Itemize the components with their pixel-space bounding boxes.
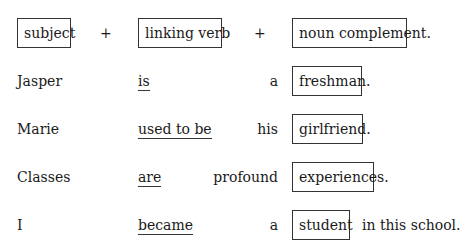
row-subject: Jasper	[17, 72, 62, 90]
row-verb-text: are	[138, 169, 161, 187]
row-complement: freshman.	[299, 73, 370, 89]
header-noun-complement: noun complement.	[299, 25, 431, 41]
row-verb-text: used to be	[138, 121, 212, 139]
header-complement-box: noun complement.	[292, 18, 407, 48]
row-complement: student	[299, 217, 353, 233]
header-subject: subject	[24, 25, 75, 41]
row-modifier: a	[220, 72, 278, 90]
row-verb-text: became	[138, 217, 193, 235]
row-complement: girlfriend.	[299, 121, 371, 137]
row-complement: experiences.	[299, 169, 389, 185]
row-subject: Classes	[17, 168, 70, 186]
row-verb: is	[138, 72, 150, 90]
header-verb-box: linking verb	[138, 18, 222, 48]
row-modifier: profound	[200, 168, 278, 186]
plus-sign: +	[100, 24, 112, 42]
row-complement-box: experiences.	[292, 162, 374, 192]
row-complement-box: girlfriend.	[292, 114, 363, 144]
header-linking-verb: linking verb	[145, 25, 230, 41]
row-verb: are	[138, 168, 161, 186]
row-modifier: his	[220, 120, 278, 138]
row-verb-text: is	[138, 73, 150, 91]
row-modifier: a	[220, 216, 278, 234]
header-subject-box: subject	[17, 18, 71, 48]
plus-sign: +	[254, 24, 266, 42]
row-verb: used to be	[138, 120, 212, 138]
row-verb: became	[138, 216, 193, 234]
row-complement-box: freshman.	[292, 66, 362, 96]
row-subject: Marie	[17, 120, 59, 138]
row-subject: I	[17, 216, 23, 234]
row-complement-box: student	[292, 210, 350, 240]
row-tail: in this school.	[362, 216, 461, 234]
